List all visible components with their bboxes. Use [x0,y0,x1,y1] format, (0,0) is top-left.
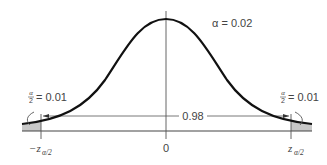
svg-text:= 0.01: = 0.01 [288,91,319,103]
svg-text:2: 2 [29,97,33,104]
right-tail-label: α 2 = 0.01 [280,89,319,104]
mean-label: 0 [163,142,169,154]
right-critical-value-label: z α/2 [287,142,304,157]
left-tail-label: α 2 = 0.01 [28,89,67,104]
svg-text:α: α [281,89,285,97]
normal-curve [22,19,312,124]
arrowhead-right-icon [283,114,289,118]
svg-text:z: z [287,142,293,154]
normal-distribution-diagram: α = 0.02 0.98 α 2 = 0.01 α 2 = 0.01 −z α… [0,0,327,165]
svg-text:α/2: α/2 [294,148,304,157]
center-area-label: 0.98 [182,110,203,122]
left-critical-value-label: −z α/2 [29,142,52,157]
svg-text:α: α [29,89,33,97]
svg-text:−z: −z [29,142,41,154]
alpha-label: α = 0.02 [212,17,252,29]
svg-text:α/2: α/2 [42,148,52,157]
arrowhead-left-icon [43,114,49,118]
svg-text:= 0.01: = 0.01 [36,91,67,103]
svg-text:2: 2 [281,97,285,104]
